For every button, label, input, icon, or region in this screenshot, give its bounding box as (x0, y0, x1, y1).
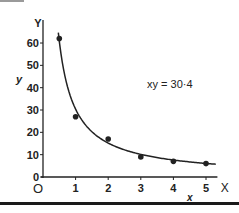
curve-equation-annotation: xy = 30·4 (147, 78, 193, 90)
curve-path (58, 33, 215, 165)
data-point (138, 154, 144, 160)
y-tick-label: 60 (27, 37, 39, 49)
data-point (203, 161, 209, 167)
x-tick-label: 4 (170, 182, 177, 194)
axes (40, 20, 217, 180)
x-axis-end-label: X (221, 181, 229, 195)
x-tick-label: 2 (105, 182, 111, 194)
y-tick-label: 30 (27, 104, 39, 116)
x-tick-label: 1 (73, 182, 79, 194)
y-tick-label: 10 (27, 149, 39, 161)
origin-label: O (33, 181, 43, 196)
data-points (57, 36, 209, 167)
chart: 010203040506012345OYXyxxy = 30·4 (0, 0, 239, 213)
data-point (105, 136, 111, 142)
bottom-rule (0, 202, 239, 205)
data-point (73, 114, 79, 120)
y-tick-label: 20 (27, 126, 39, 138)
y-tick-label: 50 (27, 59, 39, 71)
data-point (57, 36, 63, 42)
y-axis-end-label: Y (34, 17, 42, 29)
y-tick-label: 40 (27, 82, 39, 94)
x-tick-label: 3 (138, 182, 144, 194)
fitted-curve (58, 33, 215, 165)
y-axis-title: y (15, 73, 23, 85)
axis-labels: 010203040506012345OYXyxxy = 30·4 (15, 17, 229, 203)
x-tick-label: 5 (203, 182, 209, 194)
data-point (171, 159, 177, 165)
